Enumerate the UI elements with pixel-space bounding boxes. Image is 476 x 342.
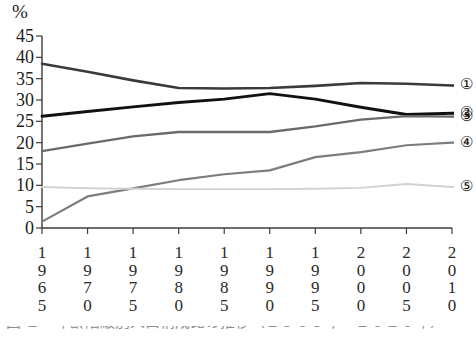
series-key-4: ④ (456, 135, 476, 150)
y-tick-label: 0 (4, 219, 34, 237)
x-tick-label: 1985 (216, 244, 232, 314)
x-tick-label: 1965 (34, 244, 50, 314)
x-tick-digit: 9 (171, 262, 187, 280)
x-tick-digit: 2 (353, 244, 369, 262)
series-key-3: ③ (456, 109, 476, 124)
series-line-4 (42, 143, 452, 222)
x-tick-digit: 1 (125, 244, 141, 262)
figure-caption-cropped: 図 １ 年齢階級別人口構成比の推移（１９６５年～２０１０年） (0, 326, 472, 342)
y-tick-label: 5 (4, 198, 34, 216)
y-tick-label: 45 (4, 27, 34, 45)
y-tick-label: 10 (4, 176, 34, 194)
x-tick-label: 2005 (398, 244, 414, 314)
x-tick-digit: 0 (398, 262, 414, 280)
x-tick-digit: 2 (398, 244, 414, 262)
series-line-1 (42, 64, 452, 89)
x-tick-digit: 8 (216, 279, 232, 297)
y-tick-label: 35 (4, 70, 34, 88)
x-tick-digit: 6 (34, 279, 50, 297)
x-tick-digit: 1 (262, 244, 278, 262)
x-tick-label: 2010 (444, 244, 460, 314)
x-tick-digit: 0 (444, 262, 460, 280)
x-tick-digit: 8 (171, 279, 187, 297)
x-tick-digit: 1 (444, 279, 460, 297)
x-tick-digit: 9 (307, 279, 323, 297)
x-tick-digit: 5 (307, 297, 323, 315)
figure-caption-text: 図 １ 年齢階級別人口構成比の推移（１９６５年～２０１０年） (6, 326, 445, 330)
series-line-5 (42, 184, 452, 189)
x-tick-digit: 0 (353, 279, 369, 297)
x-tick-digit: 9 (262, 279, 278, 297)
x-tick-digit: 0 (353, 262, 369, 280)
x-tick-digit: 0 (353, 297, 369, 315)
x-tick-digit: 9 (34, 262, 50, 280)
series-line-2 (42, 94, 452, 117)
x-tick-digit: 5 (398, 297, 414, 315)
x-tick-digit: 9 (307, 262, 323, 280)
x-tick-digit: 0 (171, 297, 187, 315)
series-key-5: ⑤ (456, 179, 476, 194)
chart-axes (36, 36, 452, 234)
x-tick-label: 1975 (125, 244, 141, 314)
y-tick-label: 40 (4, 48, 34, 66)
y-tick-label: 30 (4, 91, 34, 109)
x-tick-digit: 2 (444, 244, 460, 262)
x-tick-digit: 5 (34, 297, 50, 315)
x-tick-digit: 1 (171, 244, 187, 262)
x-tick-digit: 7 (125, 279, 141, 297)
x-tick-digit: 0 (444, 297, 460, 315)
x-tick-digit: 0 (262, 297, 278, 315)
x-tick-digit: 9 (80, 262, 96, 280)
x-tick-digit: 9 (216, 262, 232, 280)
series-line-3 (42, 116, 452, 151)
x-tick-digit: 1 (216, 244, 232, 262)
x-tick-digit: 0 (398, 279, 414, 297)
x-tick-digit: 5 (125, 297, 141, 315)
y-tick-label: 15 (4, 155, 34, 173)
series-key-1: ① (456, 77, 476, 92)
x-tick-digit: 5 (216, 297, 232, 315)
x-tick-digit: 0 (80, 297, 96, 315)
x-tick-label: 1990 (262, 244, 278, 314)
y-tick-label: 20 (4, 134, 34, 152)
x-tick-label: 2000 (353, 244, 369, 314)
x-tick-digit: 1 (307, 244, 323, 262)
chart-series-lines (42, 64, 454, 222)
x-tick-label: 1970 (80, 244, 96, 314)
y-tick-label: 25 (4, 112, 34, 130)
x-tick-digit: 9 (262, 262, 278, 280)
x-tick-digit: 1 (80, 244, 96, 262)
x-tick-label: 1995 (307, 244, 323, 314)
x-tick-label: 1980 (171, 244, 187, 314)
x-tick-digit: 1 (34, 244, 50, 262)
x-tick-digit: 7 (80, 279, 96, 297)
x-tick-digit: 9 (125, 262, 141, 280)
